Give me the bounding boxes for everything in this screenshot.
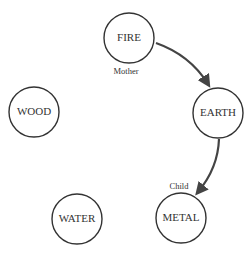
node-metal-label: METAL [162,211,199,223]
node-earth: EARTH [193,88,243,138]
node-earth-label: EARTH [200,106,236,118]
node-metal: METAL [156,193,206,243]
node-wood: WOOD [9,87,59,137]
child-label: Child [170,181,190,191]
node-fire-label: FIRE [117,31,141,43]
node-fire: FIRE [104,13,154,63]
mother-label: Mother [113,66,138,76]
fire-to-earth-arrow [156,43,208,84]
node-wood-label: WOOD [17,105,51,117]
node-water-label: WATER [59,212,96,224]
five-elements-diagram: FIRE Mother EARTH METAL Child WATER WOOD [0,0,252,255]
earth-to-metal-arrow [198,139,219,192]
node-water: WATER [52,194,102,244]
